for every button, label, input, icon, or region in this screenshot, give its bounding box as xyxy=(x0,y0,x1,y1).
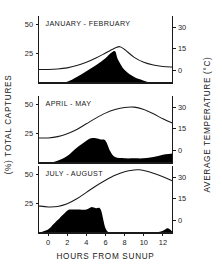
multi-panel-chart: 255001530JANUARY - FEBRUARY255001530APRI… xyxy=(0,0,222,270)
right-tick-label: 30 xyxy=(178,173,186,182)
x-tick-label: 10 xyxy=(140,238,148,247)
x-tick-label: 12 xyxy=(159,238,167,247)
right-tick-label: 30 xyxy=(178,23,186,32)
figure-root: 255001530JANUARY - FEBRUARY255001530APRI… xyxy=(0,0,222,270)
capture-area-series xyxy=(39,207,173,233)
panel-title: JULY - AUGUST xyxy=(46,169,104,178)
left-tick-label: 50 xyxy=(25,20,33,29)
left-tick-label: 25 xyxy=(25,49,33,58)
right-tick-label: 30 xyxy=(178,103,186,112)
left-axis-title: (%) TOTAL CAPTURES xyxy=(4,75,13,175)
right-axis-title: AVERAGE TEMPERATURE (°C) xyxy=(203,56,212,192)
x-axis-title: HOURS FROM SUNUP xyxy=(56,252,154,261)
panel-title: APRIL - MAY xyxy=(46,99,92,108)
x-tick-label: 6 xyxy=(103,238,107,247)
right-tick-label: 0 xyxy=(178,66,182,75)
chart-panel-2: 255001530APRIL - MAY xyxy=(25,96,186,163)
right-tick-label: 15 xyxy=(178,194,186,203)
left-tick-label: 25 xyxy=(25,199,33,208)
capture-area-series xyxy=(39,138,173,163)
left-tick-label: 50 xyxy=(25,170,33,179)
left-tick-label: 25 xyxy=(25,129,33,138)
chart-panel-1: 255001530JANUARY - FEBRUARY xyxy=(25,16,186,83)
right-tick-label: 15 xyxy=(178,124,186,133)
x-tick-label: 2 xyxy=(65,238,69,247)
capture-area-series xyxy=(39,51,173,83)
right-tick-label: 0 xyxy=(178,146,182,155)
panel-title: JANUARY - FEBRUARY xyxy=(46,19,131,28)
right-tick-label: 15 xyxy=(178,44,186,53)
right-tick-label: 0 xyxy=(178,216,182,225)
x-tick-label: 0 xyxy=(46,238,50,247)
x-axis: 024681012HOURS FROM SUNUP xyxy=(46,233,167,261)
temperature-curve-series xyxy=(39,107,173,138)
x-tick-label: 4 xyxy=(84,238,88,247)
chart-panel-3: 255001530JULY - AUGUST xyxy=(25,166,186,233)
left-tick-label: 50 xyxy=(25,100,33,109)
x-tick-label: 8 xyxy=(123,238,127,247)
